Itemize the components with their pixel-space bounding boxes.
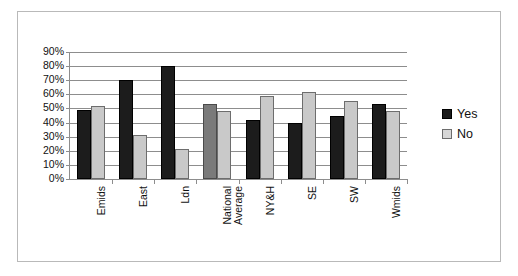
y-axis-tick-label: 40% — [24, 117, 64, 128]
bar-group — [112, 52, 154, 179]
bar-yes — [203, 104, 217, 179]
x-axis-label: National Average — [222, 186, 244, 225]
plot-area: 0%10%20%30%40%50%60%70%80%90% EmidsEastL… — [69, 52, 407, 180]
x-axis-tick-mark — [239, 179, 240, 184]
x-axis-tick-mark — [281, 179, 282, 184]
bar-no — [260, 96, 274, 179]
bar-yes — [288, 123, 302, 179]
x-axis-label: SE — [307, 186, 318, 200]
x-axis-tick-mark — [365, 179, 366, 184]
bar-no — [133, 135, 147, 179]
y-axis-tick-label: 10% — [24, 159, 64, 170]
legend-swatch-icon — [442, 129, 452, 139]
bar-group — [281, 52, 323, 179]
chart-legend: YesNo — [442, 108, 477, 147]
bar-no — [91, 106, 105, 179]
bar-group — [196, 52, 238, 179]
bar-no — [175, 149, 189, 179]
legend-swatch-icon — [442, 109, 452, 119]
bar-group — [365, 52, 407, 179]
bar-yes — [330, 116, 344, 180]
x-axis-tick-mark — [323, 179, 324, 184]
bar-no — [386, 111, 400, 179]
x-axis-label: Emids — [96, 186, 107, 215]
x-axis-tick-mark — [196, 179, 197, 184]
y-axis-tick-label: 90% — [24, 46, 64, 57]
y-axis-tick-label: 70% — [24, 74, 64, 85]
y-axis-tick-label: 60% — [24, 88, 64, 99]
y-axis-tick-mark — [66, 179, 70, 180]
bar-yes — [246, 120, 260, 179]
x-axis-tick-mark — [407, 179, 408, 184]
bar-group — [323, 52, 365, 179]
x-axis-tick-mark — [154, 179, 155, 184]
y-axis-tick-label: 50% — [24, 102, 64, 113]
y-axis-tick-label: 30% — [24, 131, 64, 142]
x-axis-label: East — [138, 186, 149, 207]
x-axis-label: SW — [349, 186, 360, 203]
bar-no — [217, 111, 231, 179]
bar-group — [70, 52, 112, 179]
bar-no — [344, 101, 358, 179]
bar-no — [302, 92, 316, 179]
bar-group — [154, 52, 196, 179]
y-axis-tick-label: 0% — [24, 173, 64, 184]
x-axis-label: NY&H — [265, 186, 276, 215]
legend-item-yes: Yes — [442, 108, 477, 121]
bar-yes — [119, 80, 133, 179]
x-axis-label: Ldn — [180, 186, 191, 204]
bar-yes — [372, 104, 386, 179]
x-axis-tick-mark — [112, 179, 113, 184]
bar-yes — [161, 66, 175, 179]
bar-yes — [77, 110, 91, 179]
x-axis-label: Wmids — [391, 186, 402, 218]
legend-item-no: No — [442, 128, 477, 141]
y-axis-tick-label: 80% — [24, 60, 64, 71]
legend-label: No — [457, 128, 473, 141]
chart-frame: 0%10%20%30%40%50%60%70%80%90% EmidsEastL… — [17, 11, 501, 262]
y-axis-tick-label: 20% — [24, 145, 64, 156]
legend-label: Yes — [457, 108, 477, 121]
bar-group — [239, 52, 281, 179]
